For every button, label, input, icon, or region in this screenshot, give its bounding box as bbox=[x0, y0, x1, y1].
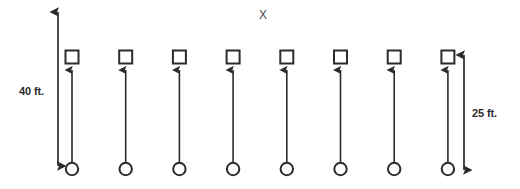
circle-marker bbox=[442, 163, 454, 175]
square-marker bbox=[334, 51, 347, 64]
column-unit bbox=[441, 51, 454, 176]
circle-marker bbox=[281, 163, 293, 175]
circle-marker bbox=[66, 163, 78, 175]
square-marker bbox=[441, 51, 454, 64]
square-marker bbox=[227, 51, 240, 64]
column-unit bbox=[388, 51, 401, 176]
square-marker bbox=[66, 51, 79, 64]
left-dimension-label: 40 ft. bbox=[19, 86, 44, 97]
column-unit bbox=[66, 51, 79, 176]
square-marker bbox=[280, 51, 293, 64]
circle-marker bbox=[120, 163, 132, 175]
column-unit bbox=[227, 51, 240, 176]
diagram-svg bbox=[0, 0, 520, 189]
column-unit bbox=[173, 51, 186, 176]
circle-marker bbox=[227, 163, 239, 175]
right-dimension-label: 25 ft. bbox=[472, 108, 497, 119]
circle-marker bbox=[173, 163, 185, 175]
square-marker bbox=[173, 51, 186, 64]
point-x-label: X bbox=[259, 9, 267, 21]
column-unit bbox=[119, 51, 132, 176]
circle-marker bbox=[334, 163, 346, 175]
square-marker bbox=[388, 51, 401, 64]
column-unit bbox=[280, 51, 293, 176]
column-unit bbox=[334, 51, 347, 176]
diagram-canvas: 40 ft. 25 ft. X bbox=[0, 0, 520, 189]
circle-marker bbox=[388, 163, 400, 175]
square-marker bbox=[119, 51, 132, 64]
